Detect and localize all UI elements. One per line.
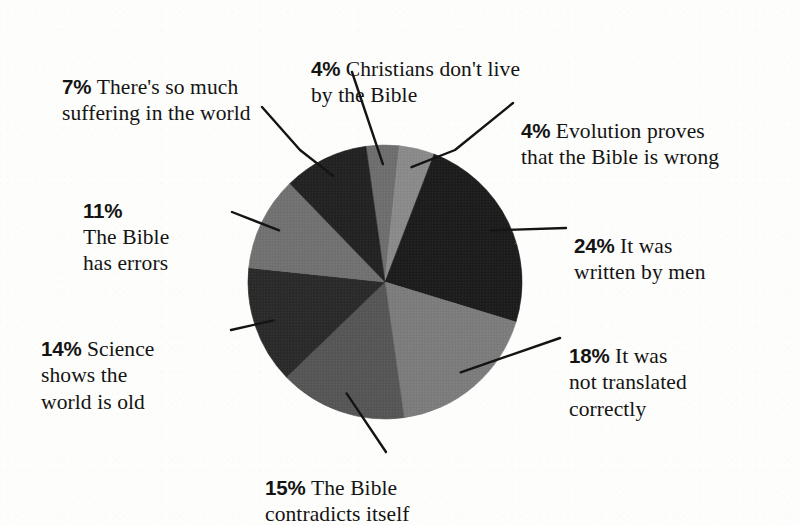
slice-percent-not-translated: 18% — [569, 344, 615, 367]
slice-label-written-by-men: 24% It was written by men — [574, 207, 786, 286]
slice-label-not-translated: 18% It was not translated correctly — [569, 317, 784, 422]
slice-percent-bible-errors: 11% — [83, 198, 263, 223]
slice-label-contradicts: 15% The Bible contradicts itself — [265, 449, 555, 525]
slice-percent-written-by-men: 24% — [574, 234, 620, 257]
slice-percent-contradicts: 15% — [265, 476, 311, 499]
slice-label-bible-errors: 11% The Bible has errors — [83, 172, 263, 277]
pie-chart-figure: 4% Christians don't live by the Bible 4%… — [0, 0, 799, 525]
slice-label-evolution: 4% Evolution proves that the Bible is wr… — [521, 92, 789, 171]
slice-percent-suffering: 7% — [62, 75, 97, 98]
slice-percent-christians: 4% — [311, 57, 346, 80]
slice-label-suffering: 7% There's so much suffering in the worl… — [62, 48, 297, 127]
slice-label-science: 14% Science shows the world is old — [41, 310, 241, 415]
slice-percent-evolution: 4% — [521, 119, 556, 142]
pie-slice-texture — [248, 145, 522, 419]
slice-text-bible-errors: The Bible has errors — [83, 225, 169, 275]
slice-percent-science: 14% — [41, 337, 87, 360]
